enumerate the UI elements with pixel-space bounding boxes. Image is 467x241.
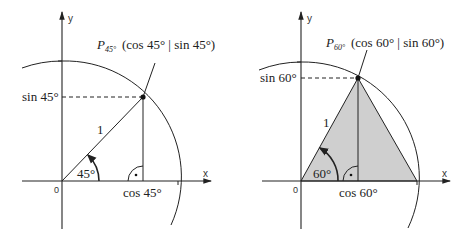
y-axis-label: y [68, 13, 73, 24]
point-coordinates: (cos 60° | sin 60°) [351, 35, 444, 50]
x-axis-label: x [203, 168, 208, 179]
radius-label: 1 [323, 115, 330, 130]
point-label: P45° [96, 37, 117, 54]
angle-label: 45° [77, 166, 95, 181]
point-leader-line [358, 50, 367, 78]
point-p45 [140, 94, 145, 99]
cos-label: cos 60° [339, 185, 378, 200]
point-leader-line [143, 63, 155, 97]
origin-label: 0 [293, 185, 298, 195]
diagram-45: y x 0 P45° (cos 45° | sin 45°) sin 45° c… [22, 12, 215, 229]
y-axis-label: y [307, 13, 312, 24]
radius-line [62, 97, 143, 181]
radius-label: 1 [97, 122, 104, 137]
sin-label: sin 45° [22, 89, 59, 104]
cos-label: cos 45° [123, 185, 162, 200]
x-axis-label: x [442, 168, 447, 179]
unit-circle-diagrams: y x 0 P45° (cos 45° | sin 45°) sin 45° c… [0, 0, 467, 241]
unit-circle-arc [22, 61, 181, 225]
point-label: P60° [325, 35, 346, 52]
right-angle-marker [128, 166, 143, 181]
diagram-60: y x 0 P60° (cos 60° | sin 60°) sin 60° c… [259, 12, 450, 229]
origin-label: 0 [54, 185, 59, 195]
sin-label: sin 60° [260, 70, 297, 85]
point-p60 [355, 75, 360, 80]
point-coordinates: (cos 45° | sin 45°) [122, 37, 215, 52]
right-angle-dot [350, 174, 353, 177]
right-angle-dot [135, 174, 138, 177]
angle-label: 60° [313, 166, 331, 181]
